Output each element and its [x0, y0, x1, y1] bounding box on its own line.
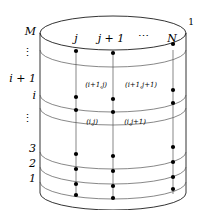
grid-node: [111, 154, 115, 158]
grid-node: [171, 101, 175, 105]
row-label-ellipsis-lower: ⋮: [22, 113, 33, 124]
grid-node: [171, 175, 175, 179]
node-label-i-plus-1-j-plus-1: (i+1,j+1): [125, 82, 157, 89]
grid-node: [111, 110, 115, 114]
grid-node: [74, 49, 78, 53]
grid-node: [74, 108, 78, 112]
grid-node: [111, 169, 115, 173]
column-label-ellipsis: ⋯: [138, 31, 149, 42]
row-label-2: 2: [29, 158, 36, 169]
column-label-j-plus-1: j + 1: [98, 33, 125, 44]
node-label-i-j-plus-1: (i,j+1): [124, 119, 146, 126]
row-label-i-plus-1: i + 1: [9, 73, 36, 84]
grid-node: [74, 167, 78, 171]
column-label-N: N: [167, 33, 177, 44]
grid-node: [74, 182, 78, 186]
row-label-ellipsis-upper: ⋮: [22, 47, 33, 58]
grid-node: [74, 95, 78, 99]
grid-node: [74, 152, 78, 156]
row-label-M: M: [25, 26, 36, 37]
grid-node: [111, 97, 115, 101]
column-label-wrap-1: 1: [188, 18, 194, 27]
grid-node: [111, 184, 115, 188]
row-label-3: 3: [29, 143, 36, 154]
node-label-i-j: (i,j): [86, 119, 98, 126]
grid-node: [171, 160, 175, 164]
row-label-i: i: [32, 90, 36, 101]
grid-node: [111, 196, 115, 200]
grid-node: [171, 187, 175, 191]
grid-node: [171, 145, 175, 149]
grid-node: [111, 51, 115, 55]
node-label-i-plus-1-j: (i+1,j): [85, 82, 107, 89]
column-label-j: j: [74, 33, 77, 44]
row-label-1: 1: [29, 173, 36, 184]
cylinder-grid-figure: M ⋮ i + 1 i ⋮ 3 2 1 j j + 1 ⋯ N 1 (i+1,j…: [0, 0, 201, 210]
grid-node: [74, 193, 78, 197]
grid-node: [171, 88, 175, 92]
